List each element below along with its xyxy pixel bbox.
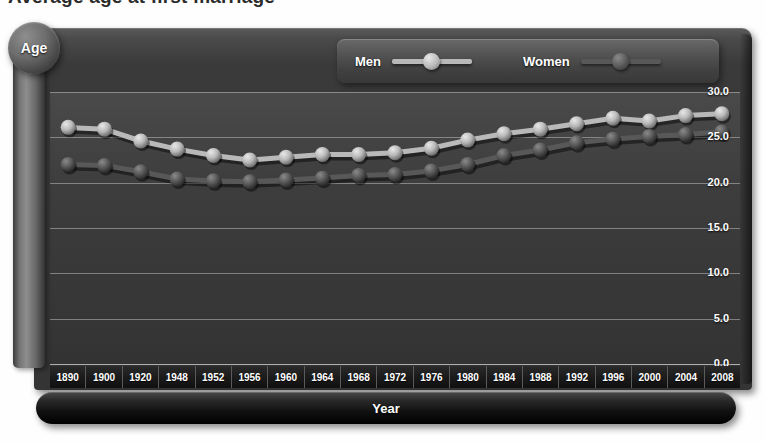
data-point-men[interactable] xyxy=(678,108,693,123)
data-point-women[interactable] xyxy=(388,167,403,182)
y-axis-bar xyxy=(13,46,45,368)
data-point-women[interactable] xyxy=(351,168,366,183)
data-point-women[interactable] xyxy=(533,143,548,158)
data-point-women[interactable] xyxy=(460,157,475,172)
x-tick-label[interactable]: 1972 xyxy=(376,366,412,388)
x-tick-label[interactable]: 2004 xyxy=(667,366,703,388)
data-point-women[interactable] xyxy=(315,171,330,186)
x-tick-label[interactable]: 1980 xyxy=(449,366,485,388)
y-tick-label: 5.0 xyxy=(685,312,729,324)
x-axis-title-bar: Year xyxy=(36,392,736,424)
series-lines xyxy=(50,92,740,364)
legend-item-men[interactable]: Men xyxy=(355,39,472,83)
data-point-women[interactable] xyxy=(206,173,221,188)
x-tick-label[interactable]: 1988 xyxy=(522,366,558,388)
y-tick-label: 25.0 xyxy=(685,130,729,142)
x-tick-label[interactable]: 1900 xyxy=(85,366,121,388)
sphere-marker-light xyxy=(392,53,472,69)
x-tick-label[interactable]: 1992 xyxy=(558,366,594,388)
data-point-men[interactable] xyxy=(496,126,511,141)
x-tick-label[interactable]: 1890 xyxy=(50,366,85,388)
y-axis-title: Age xyxy=(21,40,47,56)
data-point-men[interactable] xyxy=(533,122,548,137)
data-point-men[interactable] xyxy=(279,150,294,165)
data-point-women[interactable] xyxy=(279,172,294,187)
data-point-women[interactable] xyxy=(170,172,185,187)
data-point-men[interactable] xyxy=(569,116,584,131)
x-tick-label[interactable]: 2008 xyxy=(704,366,740,388)
data-point-women[interactable] xyxy=(642,129,657,144)
sphere-marker-dark xyxy=(581,53,661,69)
x-tick-label[interactable]: 1964 xyxy=(304,366,340,388)
x-tick-label[interactable]: 2000 xyxy=(631,366,667,388)
data-point-men[interactable] xyxy=(97,122,112,137)
data-point-women[interactable] xyxy=(424,163,439,178)
y-tick-label: 10.0 xyxy=(685,266,729,278)
data-point-women[interactable] xyxy=(569,135,584,150)
plot-area xyxy=(50,92,740,364)
x-tick-label[interactable]: 1948 xyxy=(158,366,194,388)
data-point-women[interactable] xyxy=(133,164,148,179)
x-axis-labels: 1890190019201948195219561960196419681972… xyxy=(50,366,740,388)
data-point-men[interactable] xyxy=(714,106,729,121)
gridline xyxy=(50,364,740,365)
data-point-men[interactable] xyxy=(460,133,475,148)
y-axis-title-badge: Age xyxy=(8,22,60,74)
data-point-men[interactable] xyxy=(388,145,403,160)
data-point-women[interactable] xyxy=(605,132,620,147)
x-tick-label[interactable]: 1976 xyxy=(413,366,449,388)
x-tick-label[interactable]: 1956 xyxy=(231,366,267,388)
data-point-men[interactable] xyxy=(424,141,439,156)
x-tick-label[interactable]: 1952 xyxy=(195,366,231,388)
x-tick-label[interactable]: 1960 xyxy=(267,366,303,388)
data-point-men[interactable] xyxy=(242,153,257,168)
legend-item-women[interactable]: Women xyxy=(523,39,661,83)
data-point-men[interactable] xyxy=(133,133,148,148)
y-tick-label: 20.0 xyxy=(685,176,729,188)
page-title-clipped: Average age at first marriage xyxy=(0,0,765,14)
data-point-men[interactable] xyxy=(206,148,221,163)
data-point-women[interactable] xyxy=(496,148,511,163)
chart-screenshot: Average age at first marriage 0.05.010.0… xyxy=(0,0,765,444)
x-axis-title: Year xyxy=(372,401,399,416)
data-point-women[interactable] xyxy=(97,158,112,173)
data-point-men[interactable] xyxy=(351,147,366,162)
x-tick-label[interactable]: 1984 xyxy=(486,366,522,388)
data-point-women[interactable] xyxy=(242,174,257,189)
legend-label: Women xyxy=(523,54,570,69)
data-point-men[interactable] xyxy=(61,120,76,135)
legend-label: Men xyxy=(355,54,381,69)
x-tick-label[interactable]: 1996 xyxy=(595,366,631,388)
data-point-men[interactable] xyxy=(170,142,185,157)
chart-legend: MenWomen xyxy=(337,39,719,83)
y-tick-label: 30.0 xyxy=(685,85,729,97)
data-point-women[interactable] xyxy=(61,157,76,172)
x-tick-label[interactable]: 1968 xyxy=(340,366,376,388)
data-point-men[interactable] xyxy=(315,147,330,162)
data-point-men[interactable] xyxy=(642,114,657,129)
page-title: Average age at first marriage xyxy=(8,0,275,8)
data-point-men[interactable] xyxy=(605,111,620,126)
y-tick-label: 15.0 xyxy=(685,221,729,233)
x-tick-label[interactable]: 1920 xyxy=(122,366,158,388)
